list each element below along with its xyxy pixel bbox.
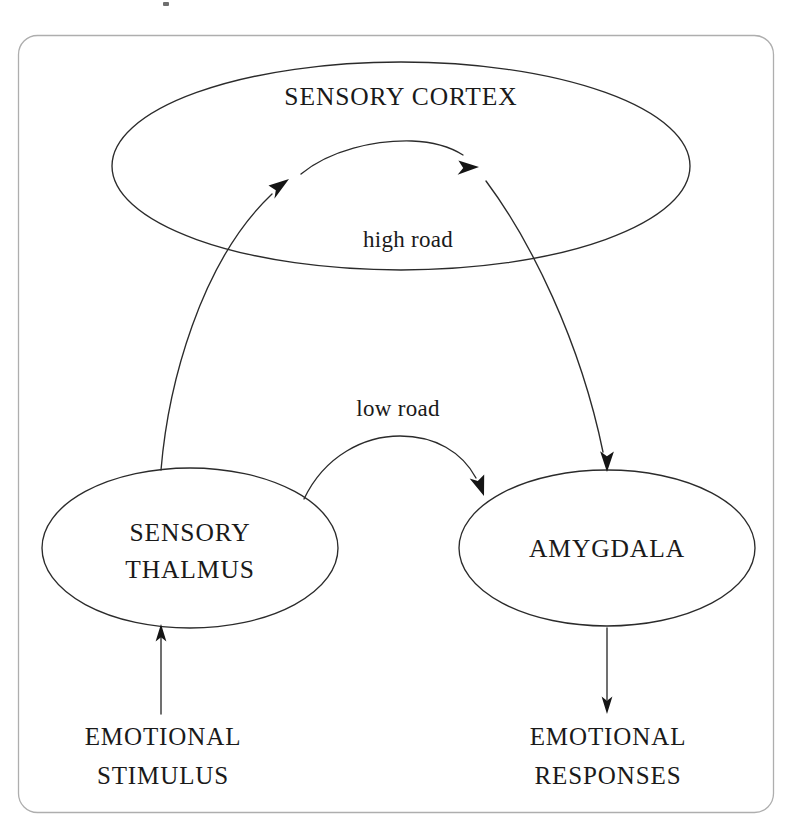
- label-emotional-stimulus-line1: EMOTIONAL: [85, 723, 242, 750]
- label-sensory-thalmus-line2: THALMUS: [125, 555, 255, 584]
- edge-thalmus-to-cortex-arrowhead: [269, 179, 290, 199]
- label-sensory-cortex: SENSORY CORTEX: [284, 82, 517, 111]
- edge-thalmus-to-amygdala-arrowhead: [470, 474, 485, 496]
- figure-root: SENSORY CORTEX SENSORY THALMUS AMYGDALA …: [0, 0, 794, 840]
- node-sensory-thalmus: [42, 468, 338, 628]
- edge-cortex-internal-arc: [301, 141, 463, 174]
- label-emotional-responses-line2: RESPONSES: [534, 762, 681, 789]
- edge-thalmus-to-amygdala-curve: [304, 436, 476, 499]
- label-emotional-responses-line1: EMOTIONAL: [530, 723, 687, 750]
- edge-cortex-to-amygdala-arrowhead: [600, 451, 614, 472]
- figure-border: [19, 36, 774, 813]
- label-amygdala: AMYGDALA: [529, 534, 685, 563]
- edge-thalmus-to-cortex-curve: [161, 194, 272, 470]
- edge-cortex-to-amygdala-curve: [486, 181, 603, 452]
- label-sensory-thalmus-line1: SENSORY: [129, 518, 250, 547]
- label-low-road: low road: [356, 396, 440, 421]
- emotion-pathway-diagram: SENSORY CORTEX SENSORY THALMUS AMYGDALA …: [0, 0, 794, 840]
- label-high-road: high road: [363, 227, 453, 252]
- label-emotional-stimulus-line2: STIMULUS: [97, 762, 229, 789]
- scan-artifact-speck: [163, 2, 169, 6]
- edge-cortex-internal-arrowhead: [458, 160, 479, 174]
